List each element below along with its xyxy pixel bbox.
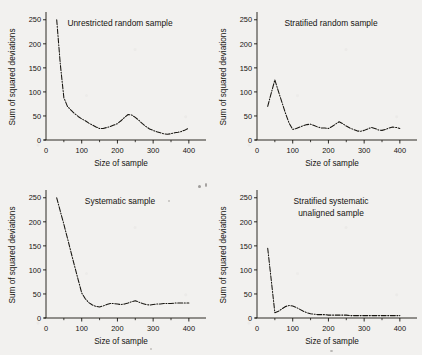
x-tick-label: 400 [183,324,195,333]
y-tick-label: 100 [240,88,252,97]
x-tick-label: 100 [287,146,299,155]
panel-title: unaligned sample [298,208,364,218]
panel-title: Stratified systematic [294,196,369,206]
y-tick-label: 250 [29,15,41,24]
x-tick-label: 400 [394,324,406,333]
x-tick-label: 200 [111,146,123,155]
x-tick-label: 200 [322,324,334,333]
y-axis-title: Sum of squared deviations [8,29,17,126]
y-tick-label: 250 [240,193,252,202]
y-tick-label: 200 [240,218,252,227]
x-tick-label: 300 [358,146,370,155]
x-axis-title: Size of sample [305,337,359,346]
x-tick-label: 400 [183,146,195,155]
chart-svg-top-left: 0501001502002500100200300400Size of samp… [0,0,211,177]
y-tick-label: 200 [29,40,41,49]
data-series-line [57,198,189,307]
x-axis-title: Size of sample [305,159,359,168]
x-tick-label: 0 [255,324,259,333]
x-tick-label: 100 [287,324,299,333]
x-tick-label: 200 [111,324,123,333]
data-series-line [57,20,189,134]
x-tick-label: 300 [147,146,159,155]
y-tick-label: 50 [33,290,41,299]
y-axis-title: Sum of squared deviations [219,207,228,304]
chart-panel-stratified-random-sample: 0501001502002500100200300400Size of samp… [211,0,422,177]
x-axis-title: Size of sample [94,337,148,346]
y-tick-label: 250 [240,15,252,24]
y-tick-label: 150 [29,64,41,73]
chart-panel-systematic-sample: 0501001502002500100200300400Size of samp… [0,178,211,355]
y-tick-label: 50 [33,112,41,121]
y-tick-label: 100 [240,266,252,275]
chart-svg-top-right: 0501001502002500100200300400Size of samp… [211,0,422,177]
plot-area: 0501001502002500100200300400Size of samp… [219,12,417,168]
x-tick-label: 0 [44,146,48,155]
y-tick-label: 150 [240,242,252,251]
y-axis-title: Sum of squared deviations [8,207,17,304]
x-tick-label: 300 [358,324,370,333]
y-tick-label: 150 [240,64,252,73]
panel-title: Unrestricted random sample [67,18,173,28]
plot-area: 0501001502002500100200300400Size of samp… [8,190,206,346]
chart-panel-unrestricted-random-sample: 0501001502002500100200300400Size of samp… [0,0,211,177]
data-series-line [268,248,400,315]
y-axis-title: Sum of squared deviations [219,29,228,126]
chart-panel-stratified-systematic-unaligned-sample: 0501001502002500100200300400Size of samp… [211,178,422,355]
y-tick-label: 200 [29,218,41,227]
panel-title: Systematic sample [85,196,156,206]
panel-title: Stratified random sample [284,18,377,28]
x-tick-label: 100 [76,324,88,333]
y-tick-label: 50 [244,112,252,121]
y-tick-label: 0 [248,136,252,145]
x-tick-label: 400 [394,146,406,155]
y-tick-label: 0 [37,314,41,323]
y-tick-label: 250 [29,193,41,202]
y-tick-label: 100 [29,88,41,97]
plot-area: 0501001502002500100200300400Size of samp… [8,12,206,168]
four-panel-figure: 0501001502002500100200300400Size of samp… [0,0,422,355]
x-tick-label: 300 [147,324,159,333]
y-tick-label: 0 [248,314,252,323]
chart-svg-bottom-right: 0501001502002500100200300400Size of samp… [211,178,422,355]
chart-svg-bottom-left: 0501001502002500100200300400Size of samp… [0,178,211,355]
x-tick-label: 100 [76,146,88,155]
plot-area: 0501001502002500100200300400Size of samp… [219,190,417,346]
y-tick-label: 100 [29,266,41,275]
x-tick-label: 0 [44,324,48,333]
data-series-line [268,80,400,131]
y-tick-label: 0 [37,136,41,145]
y-tick-label: 150 [29,242,41,251]
x-tick-label: 0 [255,146,259,155]
y-tick-label: 200 [240,40,252,49]
x-tick-label: 200 [322,146,334,155]
y-tick-label: 50 [244,290,252,299]
x-axis-title: Size of sample [94,159,148,168]
